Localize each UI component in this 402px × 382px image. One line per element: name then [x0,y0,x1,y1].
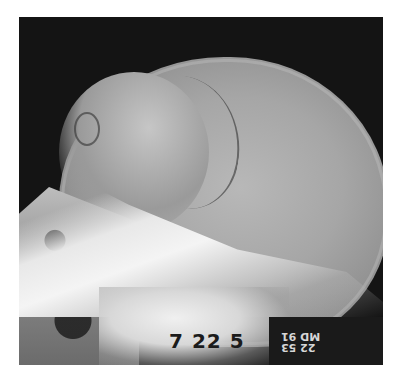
mirrored-stamp-bottom: MD 91 [281,331,320,342]
mirrored-stamp: 22 53 MD 91 [281,331,320,353]
xray-film: 7 22 5 22 53 MD 91 [19,17,383,365]
cervical-region [99,287,289,365]
orbit-outline [74,112,100,146]
mirrored-stamp-top: 22 53 [281,342,320,353]
date-stamp: 7 22 5 [169,329,245,353]
